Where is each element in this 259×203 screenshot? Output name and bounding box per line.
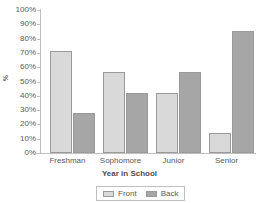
bar-back-freshman <box>73 113 95 153</box>
bar-front-freshman <box>50 51 72 153</box>
y-axis-tick-label: 70% <box>2 49 36 57</box>
legend-swatch-icon <box>103 191 114 197</box>
legend-entry-front[interactable]: Front <box>103 189 137 198</box>
y-axis-tick-label: 50% <box>2 78 36 86</box>
x-axis-tick-label: Freshman <box>38 156 98 165</box>
y-axis-tick-mark <box>37 153 41 154</box>
y-axis-tick-mark <box>37 110 41 111</box>
y-axis-tick-mark <box>37 82 41 83</box>
bar-front-senior <box>209 133 231 153</box>
legend-entry-back[interactable]: Back <box>146 189 179 198</box>
y-axis-tick-label: 60% <box>2 63 36 71</box>
y-axis-tick-label: 90% <box>2 20 36 28</box>
x-axis-line <box>32 153 256 154</box>
y-axis-tick-mark <box>37 139 41 140</box>
plot-area <box>41 10 253 153</box>
bar-back-junior <box>179 72 201 154</box>
y-axis-tick-label: 40% <box>2 92 36 100</box>
x-axis-title: Year in School <box>0 169 259 178</box>
legend-label: Back <box>161 189 179 198</box>
y-axis-tick-label: 80% <box>2 35 36 43</box>
legend-swatch-icon <box>146 191 157 197</box>
y-axis-tick-label: 100% <box>2 6 36 14</box>
y-axis-tick-mark <box>37 53 41 54</box>
bar-front-sophomore <box>103 72 125 154</box>
y-axis-tick-mark <box>37 67 41 68</box>
bar-back-senior <box>232 31 254 153</box>
y-axis-tick-label: 30% <box>2 106 36 114</box>
y-axis-tick-mark <box>37 96 41 97</box>
bar-back-sophomore <box>126 93 148 153</box>
y-axis-tick-mark <box>37 39 41 40</box>
x-axis-tick-label: Senior <box>197 156 257 165</box>
bar-group <box>101 10 147 153</box>
x-axis-tick-label: Sophomore <box>91 156 151 165</box>
y-axis-tick-mark <box>37 10 41 11</box>
bar-group <box>154 10 200 153</box>
legend-label: Front <box>118 189 137 198</box>
y-axis-tick-label: 0% <box>2 149 36 157</box>
x-axis-tick-label: Junior <box>144 156 204 165</box>
y-axis-tick-mark <box>37 124 41 125</box>
chart-legend: FrontBack <box>96 186 185 201</box>
y-axis-tick-label: 20% <box>2 120 36 128</box>
bar-chart: % 0%10%20%30%40%50%60%70%80%90%100% Year… <box>0 0 259 203</box>
y-axis-tick-mark <box>37 24 41 25</box>
bar-front-junior <box>156 93 178 153</box>
bar-group <box>48 10 94 153</box>
y-axis-tick-label: 10% <box>2 135 36 143</box>
bar-group <box>207 10 253 153</box>
